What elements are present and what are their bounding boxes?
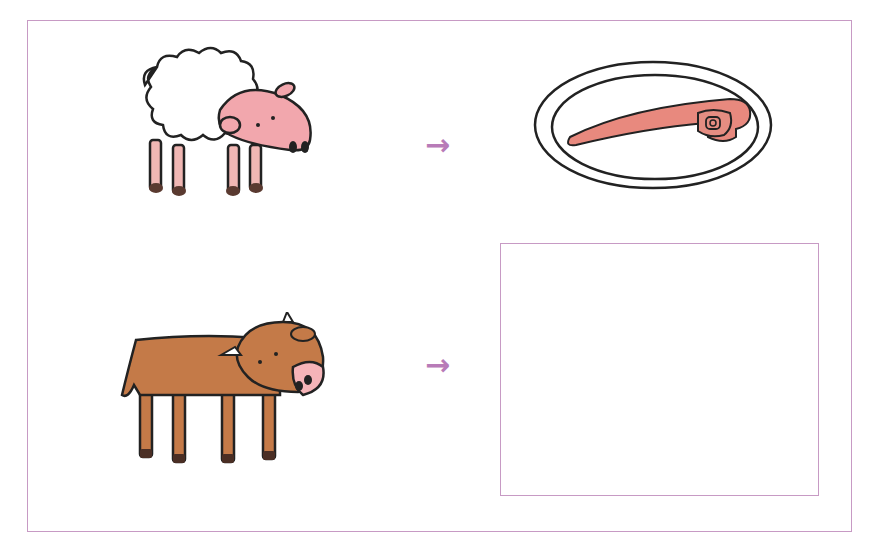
arrow-icon: → xyxy=(425,130,450,160)
cow-illustration xyxy=(118,312,328,472)
sheep-illustration xyxy=(125,45,325,205)
answer-drawing-box[interactable] xyxy=(500,243,819,496)
arrow-icon: → xyxy=(425,350,450,380)
lamb-chop-plate-illustration xyxy=(530,55,780,205)
